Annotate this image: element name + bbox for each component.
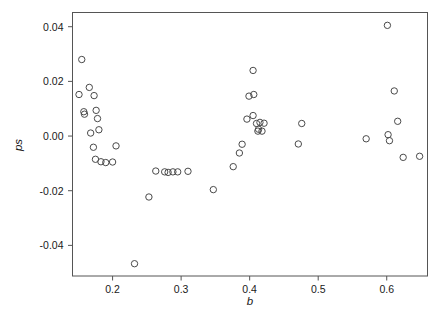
scatter-plot-figure: 0.20.30.40.50.6 0.040.020.00-0.02-0.04 b… bbox=[0, 0, 445, 321]
y-tick-label: 0.00 bbox=[43, 130, 64, 142]
y-tick-label: -0.04 bbox=[40, 239, 64, 251]
plot-canvas: 0.20.30.40.50.6 0.040.020.00-0.02-0.04 b… bbox=[0, 0, 445, 321]
x-axis-label: b bbox=[247, 295, 254, 307]
x-tick-label: 0.6 bbox=[379, 283, 394, 295]
figure-background bbox=[0, 0, 445, 321]
y-tick-label: -0.02 bbox=[40, 185, 64, 197]
x-tick-label: 0.5 bbox=[311, 283, 326, 295]
x-tick-label: 0.4 bbox=[242, 283, 257, 295]
x-tick-label: 0.2 bbox=[105, 283, 120, 295]
y-tick-label: 0.04 bbox=[43, 21, 64, 33]
x-tick-label: 0.3 bbox=[174, 283, 189, 295]
y-tick-label: 0.02 bbox=[43, 75, 64, 87]
y-axis-label: ps bbox=[12, 139, 24, 152]
